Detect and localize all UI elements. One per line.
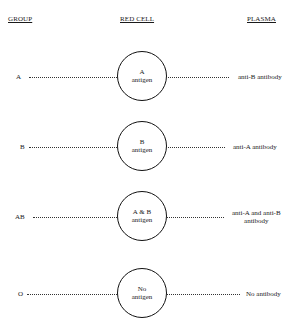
red-cell-circle: No antigen [117,268,167,318]
group-label: O [18,290,23,298]
group-label: AB [15,213,25,221]
red-cell-circle: B antigen [117,121,167,171]
header-red-cell: RED CELL [120,15,154,23]
dotted-connector-left [33,217,117,218]
antigen-label: antigen [132,293,153,301]
blood-group-row-b: B B antigen anti-A antibody [0,120,300,174]
header-plasma: PLASMA [247,15,276,23]
red-cell-circle: A antigen [117,51,167,101]
dotted-connector-left [29,77,117,78]
blood-group-row-ab: AB A & B antigen anti-A and anti-B antib… [0,190,300,244]
antigen-label: A & B [133,208,151,216]
plasma-antibody-label: No antibody [246,290,281,298]
dotted-connector-right [166,217,224,218]
group-label: A [16,73,21,81]
antigen-label: antigen [132,216,153,224]
blood-group-row-a: A A antigen anti-B antibody [0,50,300,104]
antigen-label: B [140,138,145,146]
plasma-antibody-label: anti-A and anti-B antibody [232,209,281,225]
antigen-label: antigen [132,76,153,84]
header-group: GROUP [8,15,32,23]
plasma-antibody-label: anti-B antibody [238,73,282,81]
antigen-label: No [138,285,147,293]
dotted-connector-right [166,77,229,78]
dotted-connector-right [166,147,225,148]
dotted-connector-left [27,294,117,295]
red-cell-circle: A & B antigen [117,191,167,241]
group-label: B [20,143,25,151]
antigen-label: antigen [132,146,153,154]
blood-group-row-o: O No antigen No antibody [0,267,300,321]
dotted-connector-right [166,294,240,295]
plasma-antibody-label: anti-A antibody [233,143,277,151]
dotted-connector-left [29,147,117,148]
antigen-label: A [139,68,144,76]
